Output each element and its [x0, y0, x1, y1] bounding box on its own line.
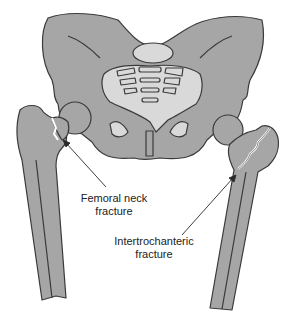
femoral-neck-label-line2: fracture	[72, 205, 156, 218]
intertrochanteric-label-line2: fracture	[98, 248, 210, 261]
femoral-neck-fracture-label: Femoral neck fracture	[72, 192, 156, 218]
right-femur	[210, 126, 279, 310]
anatomy-illustration	[0, 0, 297, 329]
intertrochanteric-fracture-label: Intertrochanteric fracture	[98, 235, 210, 261]
intertrochanteric-label-line1: Intertrochanteric	[98, 235, 210, 248]
hip-fracture-diagram: Femoral neck fracture Intertrochanteric …	[0, 0, 297, 329]
femoral-neck-label-line1: Femoral neck	[72, 192, 156, 205]
figure-caption	[40, 322, 270, 329]
